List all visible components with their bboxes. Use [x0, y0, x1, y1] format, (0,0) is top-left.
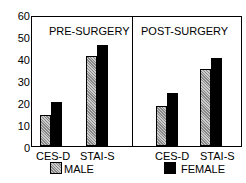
bar-post-cesd-male [156, 106, 167, 146]
x-label: STAI-S [200, 150, 235, 162]
legend-female: FEMALE [164, 162, 225, 175]
panel-title: PRE-SURGERY [49, 25, 129, 37]
bar-pre-stais-male [86, 56, 97, 146]
y-tick: 30 [4, 76, 30, 88]
x-label: CES-D [36, 150, 70, 162]
bar-post-stais-male [200, 69, 211, 146]
y-tick: 60 [4, 10, 30, 22]
y-axis: 60 50 40 30 20 10 0 [0, 0, 30, 160]
x-label: STAI-S [80, 150, 115, 162]
y-tick: 10 [4, 120, 30, 132]
y-tick: 0 [4, 142, 30, 154]
y-tick: 20 [4, 98, 30, 110]
post-surgery-panel: POST-SURGERY [132, 16, 242, 147]
male-swatch-icon [50, 162, 62, 174]
bar-pre-cesd-male [40, 115, 51, 146]
y-tick: 50 [4, 32, 30, 44]
bar-post-cesd-female [167, 93, 178, 146]
bar-post-stais-female [211, 58, 222, 146]
female-swatch-icon [164, 162, 176, 174]
pre-surgery-panel: PRE-SURGERY [31, 16, 133, 147]
x-label: CES-D [155, 150, 189, 162]
panel-title: POST-SURGERY [141, 25, 228, 37]
legend-label: FEMALE [181, 163, 225, 175]
bar-pre-cesd-female [51, 102, 62, 146]
legend-label: MALE [64, 163, 94, 175]
bar-pre-stais-female [97, 45, 108, 146]
y-tick: 40 [4, 54, 30, 66]
legend-male: MALE [50, 162, 94, 175]
